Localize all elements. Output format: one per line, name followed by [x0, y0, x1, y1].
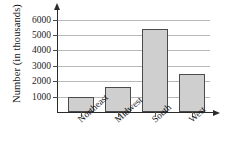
- y-axis-arrow-icon: [54, 3, 60, 10]
- y-axis-title: Number (in thousands): [11, 0, 22, 110]
- y-tick-label: 1000: [32, 92, 51, 102]
- y-tick-mark: [53, 81, 58, 82]
- gridline: [57, 66, 210, 67]
- y-tick-label: 3000: [32, 61, 51, 71]
- x-axis-arrow-icon: [213, 110, 220, 116]
- gridline: [57, 50, 210, 51]
- y-tick-mark: [53, 97, 58, 98]
- y-tick-label: 2000: [32, 76, 51, 86]
- y-tick-label: 6000: [32, 15, 51, 25]
- gridline: [57, 35, 210, 36]
- y-tick-label: 4000: [32, 45, 51, 55]
- gridline: [57, 20, 210, 21]
- bar-south: [142, 29, 168, 112]
- y-tick-label: 5000: [32, 30, 51, 40]
- bar-chart-figure: Number (in thousands) 100020003000400050…: [0, 0, 226, 160]
- y-tick-mark: [53, 66, 58, 67]
- y-tick-mark: [53, 20, 58, 21]
- y-tick-mark: [53, 50, 58, 51]
- y-tick-mark: [53, 35, 58, 36]
